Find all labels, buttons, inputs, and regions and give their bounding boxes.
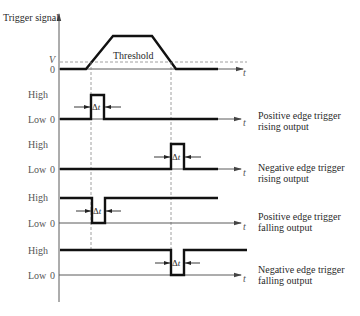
output-waveform bbox=[60, 250, 247, 275]
time-axis-label: t bbox=[243, 273, 246, 284]
delta-t-label: Δt bbox=[92, 102, 101, 112]
low-label: Low bbox=[28, 114, 47, 125]
zero-label: 0 bbox=[50, 114, 55, 125]
row-title-line1: Positive edge trigger bbox=[258, 211, 341, 222]
row-negative-edge-falling: High Low 0 t Δt Negative edge trigger fa… bbox=[28, 245, 345, 286]
high-label: High bbox=[28, 192, 48, 203]
high-label: High bbox=[28, 245, 48, 256]
time-axis-label: t bbox=[243, 221, 246, 232]
low-label: Low bbox=[28, 270, 47, 281]
row-negative-edge-rising: High Low 0 t Δt Negative edge trigger ri… bbox=[28, 139, 345, 184]
zero-label: 0 bbox=[50, 218, 55, 229]
low-label: Low bbox=[28, 164, 47, 175]
y-axis-label: Trigger signal bbox=[3, 12, 59, 23]
high-label: High bbox=[28, 89, 48, 100]
trigger-signal-panel: t Threshold V 0 bbox=[49, 36, 247, 78]
time-axis-label: t bbox=[243, 67, 246, 78]
zero-label: 0 bbox=[50, 270, 55, 281]
row-title-line2: rising output bbox=[258, 121, 309, 132]
edge-trigger-timing-diagram: Trigger signal t Threshold V 0 High Low … bbox=[0, 0, 360, 316]
delta-t-label: Δt bbox=[93, 206, 102, 216]
time-axis-label: t bbox=[243, 117, 246, 128]
delta-t-label: Δt bbox=[172, 258, 181, 268]
low-label: Low bbox=[28, 218, 47, 229]
delta-t-label: Δt bbox=[172, 152, 181, 162]
output-waveform bbox=[60, 144, 218, 169]
row-positive-edge-rising: High Low 0 t Δt Positive edge trigger ri… bbox=[28, 89, 341, 132]
row-title-line2: rising output bbox=[258, 173, 309, 184]
row-title-line1: Negative edge trigger bbox=[258, 162, 345, 173]
time-axis-label: t bbox=[243, 167, 246, 178]
row-title-line2: falling output bbox=[258, 275, 312, 286]
high-label: High bbox=[28, 139, 48, 150]
output-waveform bbox=[60, 198, 218, 223]
row-title-line2: falling output bbox=[258, 222, 312, 233]
row-title-line1: Negative edge trigger bbox=[258, 264, 345, 275]
zero-label: 0 bbox=[50, 64, 55, 75]
row-positive-edge-falling: High Low 0 t Δt Positive edge trigger fa… bbox=[28, 192, 341, 233]
threshold-label: Threshold bbox=[113, 50, 154, 61]
zero-label: 0 bbox=[50, 164, 55, 175]
row-title-line1: Positive edge trigger bbox=[258, 110, 341, 121]
